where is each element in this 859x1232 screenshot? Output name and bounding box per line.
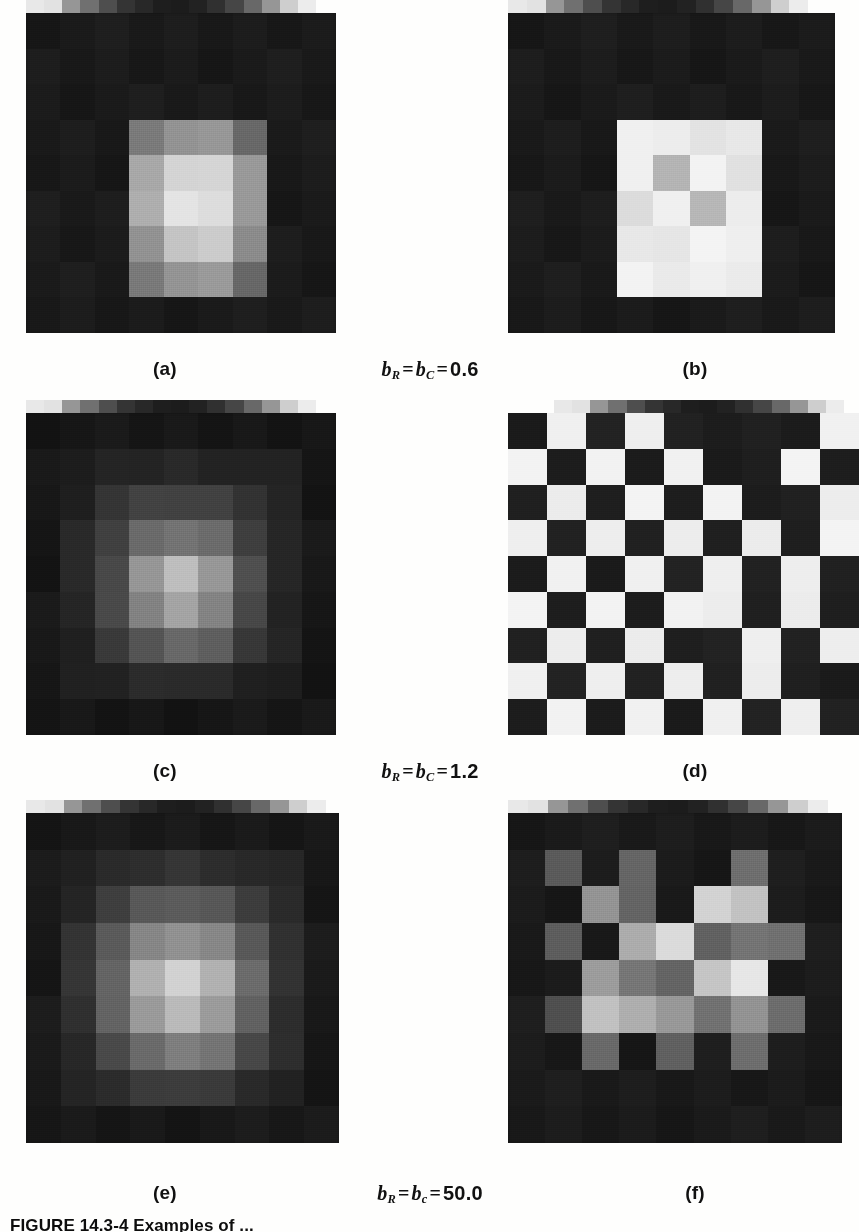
image-pixel xyxy=(694,1033,731,1070)
scale-strip-cell xyxy=(508,0,527,13)
image-pixel xyxy=(805,850,842,887)
image-pixel xyxy=(762,155,798,191)
image-pixel xyxy=(731,923,768,960)
image-pixel xyxy=(233,155,267,191)
image-pixel xyxy=(617,226,653,262)
image-pixel xyxy=(304,960,339,997)
image-pixel xyxy=(581,13,617,49)
image-pixel xyxy=(233,628,267,664)
image-pixel xyxy=(129,449,163,485)
image-pixel xyxy=(508,155,544,191)
image-pixel xyxy=(61,850,96,887)
image-pixel xyxy=(130,923,165,960)
scale-strip-cell xyxy=(790,400,808,413)
image-pixel xyxy=(129,556,163,592)
image-pixel xyxy=(653,191,689,227)
image-pixel xyxy=(164,226,198,262)
image-pixel xyxy=(60,485,94,521)
image-pixel xyxy=(586,485,625,521)
scale-strip-b xyxy=(508,0,808,13)
image-pixel xyxy=(805,960,842,997)
panel-b xyxy=(508,0,835,333)
image-pixel xyxy=(619,960,656,997)
image-pixel xyxy=(690,262,726,298)
image-pixel xyxy=(545,923,582,960)
image-pixel xyxy=(198,485,232,521)
image-pixel xyxy=(233,84,267,120)
image-pixel xyxy=(544,262,580,298)
image-pixel xyxy=(690,13,726,49)
image-pixel xyxy=(26,1106,61,1143)
image-pixel xyxy=(653,297,689,333)
image-pixel xyxy=(508,850,545,887)
image-pixel xyxy=(233,520,267,556)
image-pixel xyxy=(742,592,781,628)
image-pixel xyxy=(805,886,842,923)
image-pixel xyxy=(690,84,726,120)
image-pixel xyxy=(625,449,664,485)
image-pixel xyxy=(726,49,762,85)
panel-letter-e: (e) xyxy=(0,1182,330,1204)
image-pixel xyxy=(129,262,163,298)
image-pixel xyxy=(60,155,94,191)
image-pixel xyxy=(164,520,198,556)
image-pixel xyxy=(731,850,768,887)
scale-strip-cell xyxy=(572,400,590,413)
image-pixel xyxy=(619,1070,656,1107)
panel-letter-f: (f) xyxy=(530,1182,859,1204)
image-pixel xyxy=(619,923,656,960)
scale-strip-cell xyxy=(789,0,808,13)
scale-strip-cell xyxy=(768,800,788,813)
scale-strip-cell xyxy=(608,800,628,813)
image-pixel xyxy=(26,413,60,449)
image-pixel xyxy=(581,84,617,120)
scale-strip-cell xyxy=(101,800,120,813)
image-pixel xyxy=(653,226,689,262)
image-pixel xyxy=(304,813,339,850)
image-pixel xyxy=(805,1033,842,1070)
image-pixel xyxy=(200,1070,235,1107)
image-pixel xyxy=(26,699,60,735)
scale-strip-cell xyxy=(648,800,668,813)
image-pixel xyxy=(799,191,835,227)
image-pixel xyxy=(508,120,544,156)
image-pixel xyxy=(805,996,842,1033)
image-pixel xyxy=(200,996,235,1033)
image-pixel xyxy=(26,262,60,298)
image-pixel xyxy=(625,485,664,521)
scale-strip-cell xyxy=(568,800,588,813)
image-pixel xyxy=(198,226,232,262)
scale-strip-cell xyxy=(270,800,289,813)
image-pixel xyxy=(269,1106,304,1143)
image-pixel xyxy=(60,120,94,156)
image-pixel xyxy=(304,1106,339,1143)
scale-strip-cell xyxy=(232,800,251,813)
image-pixel xyxy=(164,485,198,521)
image-pixel xyxy=(95,556,129,592)
image-pixel xyxy=(731,960,768,997)
image-pixel xyxy=(60,297,94,333)
caption-row-2: (c) bR=bC=1.2 (d) xyxy=(0,760,859,794)
image-pixel xyxy=(508,413,547,449)
image-pixel xyxy=(508,923,545,960)
scale-strip-cell xyxy=(298,0,316,13)
image-pixel xyxy=(547,485,586,521)
image-pixel xyxy=(96,813,131,850)
image-pixel xyxy=(742,699,781,735)
scale-strip-cell xyxy=(26,0,44,13)
image-pixel xyxy=(731,996,768,1033)
image-pixel xyxy=(164,262,198,298)
image-pixel xyxy=(304,1033,339,1070)
image-pixel xyxy=(130,850,165,887)
figure-sheet: (a) bR=bC=0.6 (b) (c) bR=bC=1.2 xyxy=(0,0,859,1232)
image-pixel xyxy=(302,663,336,699)
image-pixel xyxy=(799,262,835,298)
image-pixel xyxy=(545,996,582,1033)
scale-strip-cell xyxy=(80,0,98,13)
image-pixel xyxy=(95,13,129,49)
image-pixel xyxy=(302,155,336,191)
image-pixel xyxy=(586,520,625,556)
image-pixel xyxy=(233,262,267,298)
image-pixel xyxy=(26,996,61,1033)
image-pixel xyxy=(302,520,336,556)
